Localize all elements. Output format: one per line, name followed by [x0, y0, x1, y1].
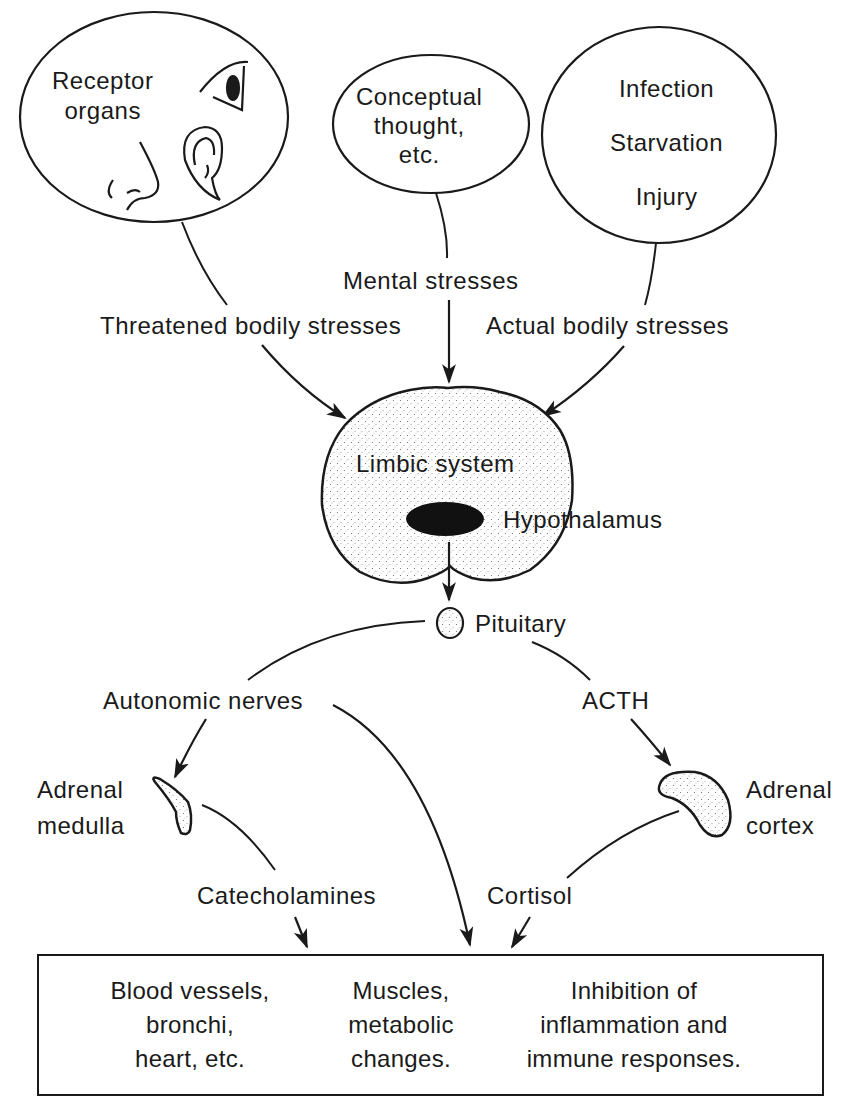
effect-cardiovascular: Blood vessels, bronchi, heart, etc. — [95, 974, 285, 1076]
cortisol-arrow — [512, 917, 530, 947]
cortisol-label: Cortisol — [487, 881, 572, 911]
medulla-line — [202, 805, 275, 870]
actual-arrow — [543, 346, 624, 416]
adrenal-medulla-label: Adrenal medulla — [37, 772, 125, 844]
mental-stresses-label: Mental stresses — [343, 266, 519, 296]
pituitary-left-line — [248, 621, 425, 680]
physical-line — [645, 243, 656, 305]
autonomic-nerves-label: Autonomic nerves — [103, 686, 303, 716]
adrenal-cortex-shape — [659, 772, 731, 837]
receptor-line — [182, 222, 227, 305]
physical-stressors-label: Infection Starvation Injury — [610, 62, 723, 224]
threatened-bodily-stresses-label: Threatened bodily stresses — [100, 311, 401, 341]
pituitary-right-line — [532, 642, 590, 680]
eye-icon — [200, 62, 248, 110]
autonomic-to-medulla-arrow — [175, 719, 206, 777]
effect-immune: Inhibition of inflammation and immune re… — [509, 974, 759, 1076]
cortex-line — [567, 811, 679, 878]
acth-to-cortex-arrow — [631, 719, 670, 765]
conceptual-line — [436, 193, 447, 258]
effect-metabolic: Muscles, metabolic changes. — [331, 974, 471, 1076]
adrenal-cortex-label: Adrenal cortex — [746, 772, 832, 844]
limbic-system-label: Limbic system — [356, 449, 515, 479]
ear-icon — [184, 127, 222, 200]
pituitary-shape — [437, 608, 463, 638]
effects-box: Blood vessels, bronchi, heart, etc. Musc… — [37, 954, 824, 1096]
pituitary-label: Pituitary — [475, 609, 566, 639]
catecholamines-arrow — [295, 917, 307, 947]
hypothalamus-shape — [406, 502, 484, 536]
catecholamines-label: Catecholamines — [197, 881, 376, 911]
threatened-arrow — [262, 345, 345, 418]
conceptual-thought-label: Conceptual thought, etc. — [356, 82, 482, 169]
acth-label: ACTH — [582, 686, 649, 716]
limbic-system-shape — [322, 387, 573, 583]
nose-icon — [109, 142, 159, 210]
receptor-organs-label: Receptor organs — [52, 66, 153, 126]
adrenal-medulla-shape — [153, 778, 191, 834]
actual-bodily-stresses-label: Actual bodily stresses — [486, 311, 729, 341]
hypothalamus-label: Hypothalamus — [503, 505, 662, 535]
